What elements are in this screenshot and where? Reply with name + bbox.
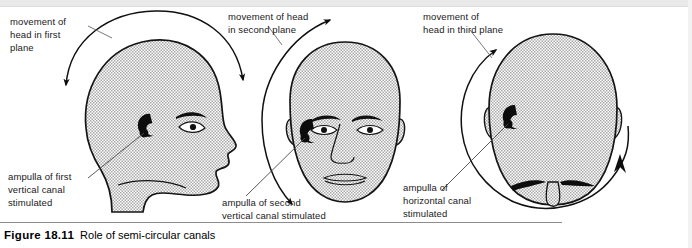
label-ampulla-first-vertical-canal: ampulla of first vertical canal stimulat…: [8, 170, 112, 209]
label-movement-second-plane: movement of head in second plane: [228, 10, 346, 36]
head-frontal: [286, 42, 404, 202]
eye-left-icon: [311, 126, 337, 135]
figure-caption: Figure 18.11Role of semi-circular canals: [4, 229, 215, 241]
panel-second-plane: [246, 20, 405, 204]
label-movement-first-plane: movement of head in first plane: [10, 15, 106, 54]
caption-divider: [0, 222, 562, 223]
figure-number: Figure 18.11: [4, 229, 74, 241]
figure-caption-text: Role of semi-circular canals: [80, 229, 215, 241]
leader-line-amp-2: [246, 138, 305, 196]
figure-page: movement of head in first plane ampulla …: [0, 0, 692, 248]
label-movement-third-plane: movement of head in third plane: [423, 10, 543, 36]
nose-top-icon: [546, 182, 560, 206]
label-ampulla-horizontal-canal: ampulla of horizontal canal stimulated: [403, 181, 505, 220]
label-ampulla-second-vertical-canal: ampulla of second vertical canal stimula…: [222, 196, 354, 222]
eye-right-icon: [357, 126, 383, 135]
